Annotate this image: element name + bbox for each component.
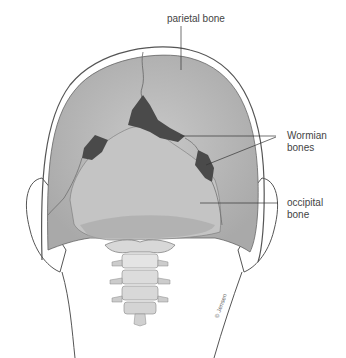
label-occipital-bone: occipital bone [287, 197, 323, 221]
neck-outline [62, 272, 75, 358]
label-wormian-bones: Wormian bones [287, 130, 327, 154]
cervical-spine [105, 240, 175, 326]
label-parietal-bone: parietal bone [167, 13, 225, 25]
skull-illustration [0, 0, 346, 358]
